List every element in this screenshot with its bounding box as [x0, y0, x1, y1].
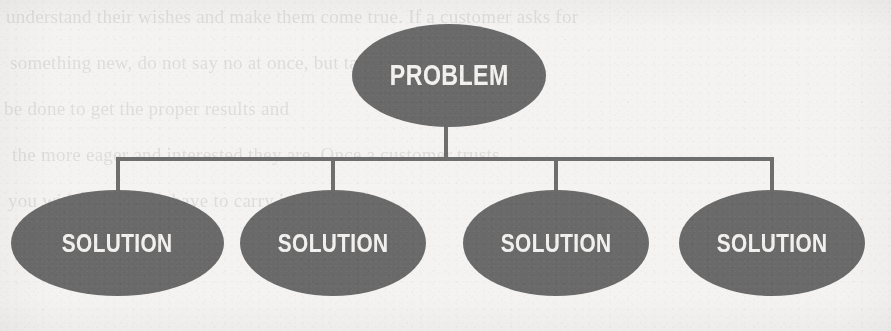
- node-solution-2[interactable]: SOLUTION: [240, 190, 426, 296]
- bleedthrough-line: be done to get the proper results and: [4, 98, 289, 120]
- node-solution-3[interactable]: SOLUTION: [463, 190, 649, 296]
- diagram-canvas: understand their wishes and make them co…: [0, 0, 891, 331]
- bleedthrough-line: the more eager and interested they are. …: [12, 144, 500, 166]
- node-solution-4-label: SOLUTION: [717, 230, 828, 256]
- connector-horizontal-bar: [116, 157, 774, 161]
- node-solution-4[interactable]: SOLUTION: [679, 190, 865, 296]
- node-solution-1-label: SOLUTION: [62, 230, 173, 256]
- node-solution-1[interactable]: SOLUTION: [11, 190, 224, 296]
- node-solution-3-label: SOLUTION: [501, 230, 612, 256]
- node-solution-2-label: SOLUTION: [278, 230, 389, 256]
- node-problem[interactable]: PROBLEM: [352, 24, 546, 127]
- node-problem-label: PROBLEM: [390, 61, 509, 90]
- bleedthrough-line: understand their wishes and make them co…: [6, 6, 578, 28]
